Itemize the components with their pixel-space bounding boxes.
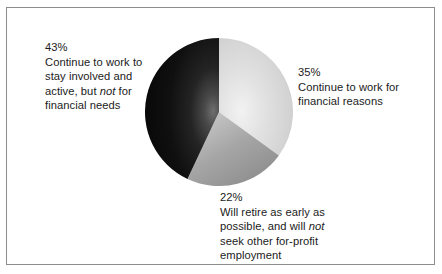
pie-label-43-line3-post: for [115,85,131,97]
pie-label-43-line4: financial needs [45,98,180,113]
pie-label-22: 22% Will retire as early as possible, an… [220,190,365,263]
pie-label-43-line3-emphasis: not [100,85,116,97]
pie-label-22-line2-pre: possible, and will [220,220,309,232]
pie-label-35: 35% Continue to work for financial reaso… [298,65,433,109]
pie-label-35-percent: 35% [298,65,433,80]
pie-label-22-line2: possible, and will not [220,219,365,234]
pie-label-22-percent: 22% [220,190,365,205]
pie-label-22-line2-emphasis: not [309,220,325,232]
pie-label-22-line1: Will retire as early as [220,205,365,220]
pie-label-35-line1: Continue to work for [298,80,433,95]
pie-label-35-line2: financial reasons [298,94,433,109]
chart-frame: 43% Continue to work to stay involved an… [6,7,435,265]
pie-label-22-line3: seek other for-profit [220,234,365,249]
pie-label-43-line3: active, but not for [45,84,180,99]
pie-label-43: 43% Continue to work to stay involved an… [45,40,180,113]
pie-label-22-line4: employment [220,248,365,263]
screenshot-root: 43% Continue to work to stay involved an… [0,0,442,274]
pie-label-43-line1: Continue to work to [45,55,180,70]
pie-label-43-line2: stay involved and [45,69,180,84]
pie-label-43-percent: 43% [45,40,180,55]
pie-label-43-line3-pre: active, but [45,85,100,97]
